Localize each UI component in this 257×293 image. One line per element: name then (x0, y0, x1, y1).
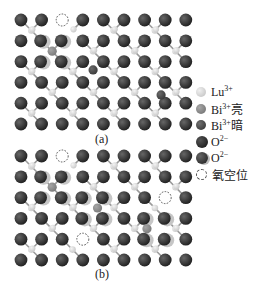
lu-atom (70, 26, 76, 32)
legend-item-bi-bright: Bi3+亮 (196, 101, 256, 118)
lu-atom (50, 225, 56, 231)
lu-atom (29, 204, 35, 210)
lu-atom (153, 26, 159, 32)
oxygen-atom (15, 150, 28, 163)
oxygen-atom (97, 233, 110, 246)
oxygen-atom (179, 118, 192, 131)
oxygen-vacancy (56, 14, 68, 26)
oxygen-vacancy-icon (196, 169, 207, 180)
oxygen-atom (97, 14, 110, 27)
oxygen-shaded-atom (34, 191, 47, 204)
oxygen-atom (179, 150, 192, 163)
oxygen-atom (76, 170, 89, 183)
oxygen-atom (179, 97, 192, 110)
oxygen-atom (159, 55, 172, 68)
oxygen-atom (118, 34, 131, 47)
oxygen-atom (15, 118, 28, 131)
lu-atom (153, 162, 159, 168)
oxygen-vacancy (77, 233, 89, 245)
oxygen-atoms (15, 14, 193, 131)
oxygen-shaded-atom (55, 170, 68, 183)
oxygen-atom (159, 76, 172, 89)
lu-atom (173, 89, 179, 95)
oxygen-atom (15, 170, 28, 183)
lu-atom-icon (196, 87, 206, 97)
lu-atom (153, 245, 159, 251)
bi-dark-atom (89, 65, 98, 74)
oxygen-atom (118, 118, 131, 131)
oxygen-atom (179, 55, 192, 68)
oxygen-atom (179, 233, 192, 246)
oxygen-atom (35, 76, 48, 89)
legend-label: Lu (211, 85, 224, 99)
oxygen-atom (138, 97, 151, 110)
oxygen-atom (76, 14, 89, 27)
oxygen-atom (159, 254, 172, 267)
oxygen-shaded-atom (75, 212, 88, 225)
oxygen-atom (35, 150, 48, 163)
oxygen-atom (138, 150, 151, 163)
bi-bright-atom (48, 183, 57, 192)
oxygen-atom (179, 76, 192, 89)
legend: Lu3+ Bi3+亮 Bi3+暗 O2− O2− 氧空位 (196, 84, 256, 183)
oxygen-atom (118, 76, 131, 89)
oxygen-atom (76, 118, 89, 131)
legend-item-vacancy: 氧空位 (196, 167, 256, 184)
legend-item-bi-dark: Bi3+暗 (196, 117, 256, 134)
oxygen-atom (138, 55, 151, 68)
lu-atom (152, 205, 159, 212)
legend-label: O (211, 151, 220, 165)
legend-sup: 3+ (222, 102, 231, 111)
oxygen-atom (15, 97, 28, 110)
oxygen-atom-icon (196, 136, 208, 148)
oxygen-shaded-atom-icon (196, 152, 208, 164)
lu-atom (132, 225, 138, 231)
oxygen-atom (118, 170, 131, 183)
oxygen-atom (56, 118, 69, 131)
oxygen-atom (15, 34, 28, 47)
oxygen-shaded-atom (34, 55, 47, 68)
oxygen-atom (159, 150, 172, 163)
oxygen-atom (76, 76, 89, 89)
panel-b-caption: (b) (95, 267, 109, 282)
oxygen-atom (15, 233, 28, 246)
oxygen-atom (138, 76, 151, 89)
bi-bright-atom (142, 224, 151, 233)
oxygen-vacancy (159, 192, 171, 204)
lu-atom (153, 68, 159, 74)
lu-atom (91, 47, 97, 53)
lu-atom (29, 26, 35, 32)
oxygen-atom (97, 55, 110, 68)
oxygen-atom (76, 254, 89, 267)
oxygen-shaded-atom (137, 212, 150, 225)
legend-item-oxygen-shaded: O2− (196, 150, 256, 167)
lu-atom (29, 109, 35, 115)
bi-bright-atom (93, 203, 102, 212)
oxygen-atom (15, 254, 28, 267)
oxygen-atom (56, 254, 69, 267)
oxygen-atom (179, 34, 192, 47)
lu-atom (173, 183, 179, 189)
panel-b-structure (15, 150, 193, 267)
oxygen-atom (138, 118, 151, 131)
lu-atom (112, 204, 118, 210)
oxygen-atom (118, 212, 131, 225)
oxygen-atom (138, 14, 151, 27)
lu-atom (112, 26, 118, 32)
oxygen-atom (76, 150, 89, 163)
legend-label: O (211, 135, 220, 149)
lu-atom (29, 162, 35, 168)
lu-atom (91, 225, 97, 231)
oxygen-atom (56, 97, 69, 110)
oxygen-atom (76, 34, 89, 47)
oxygen-atom (159, 34, 172, 47)
oxygen-shaded-atom (34, 34, 47, 47)
lu-atom (112, 162, 118, 168)
lu-atom (91, 183, 97, 189)
oxygen-atom (159, 118, 172, 131)
lu-atom (132, 47, 138, 53)
oxygen-shaded-atom (96, 191, 109, 204)
oxygen-atom (56, 233, 69, 246)
oxygen-atom (118, 233, 131, 246)
legend-item-lu: Lu3+ (196, 84, 256, 101)
